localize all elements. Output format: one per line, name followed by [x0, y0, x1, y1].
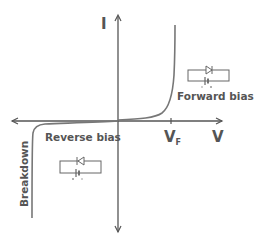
reverse-bias-label: Reverse bias [45, 131, 121, 143]
diode-reverse-icon [78, 157, 84, 165]
forward-bias-label: Forward bias [177, 90, 254, 102]
x-axis-label: V [212, 128, 224, 146]
y-axis-label: I [101, 15, 107, 33]
y-axis [115, 15, 121, 232]
forward-bias-circuit [188, 66, 229, 88]
breakdown-label: Breakdown [18, 141, 30, 207]
diode-forward-icon [206, 66, 212, 74]
vf-label: VF [164, 128, 181, 147]
reverse-bias-circuit [60, 157, 101, 180]
forward-curve [118, 25, 175, 120]
diode-iv-diagram: I V VF Forward bias Reverse bias Breakdo… [0, 0, 255, 238]
diagram-canvas: I V VF Forward bias Reverse bias Breakdo… [0, 0, 255, 238]
